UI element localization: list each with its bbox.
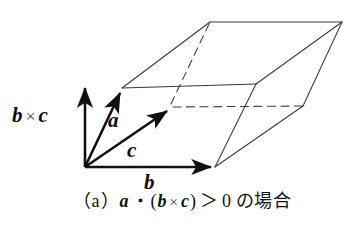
caption-japanese-text: の場合 [231, 191, 292, 211]
edge-base-right [215, 106, 303, 167]
cross-operator-icon: × [23, 107, 39, 126]
edge-top-front [122, 84, 256, 88]
caption-open-paren: （ [73, 191, 91, 211]
caption-relation: ＞ [196, 191, 222, 211]
label-bxc-right: c [39, 103, 49, 127]
caption-dot-operator-icon: ・ [130, 193, 151, 209]
caption-tag: a [91, 191, 101, 211]
edge-side-front-right [215, 84, 256, 167]
edge-hidden-base-back [173, 106, 303, 107]
caption-cross-operator-icon: × [168, 194, 180, 210]
label-vector-c: c [127, 140, 137, 161]
edge-side-back-right [303, 22, 342, 106]
caption-vector-c: c [180, 191, 190, 211]
edge-top-left [122, 22, 210, 88]
label-vector-b: b [144, 172, 155, 193]
label-bxc-left: b [12, 103, 23, 127]
figure-caption: （a）a・(b×c)＞0の場合 [0, 192, 364, 212]
figure-container: b×c a c b （a）a・(b×c)＞0の場合 [0, 0, 364, 225]
label-b-cross-c: b×c [12, 105, 48, 126]
edge-hidden-vertical-back-left [171, 22, 210, 104]
caption-vector-a: a [119, 191, 130, 211]
edge-top-right [256, 22, 342, 84]
parallelepiped-edges [122, 22, 342, 167]
vector-arrows [85, 88, 211, 167]
caption-vector-b: b [157, 191, 168, 211]
caption-group-open: ( [151, 191, 157, 211]
caption-value: 0 [222, 191, 231, 211]
label-vector-a: a [108, 110, 119, 131]
caption-close-paren: ） [101, 191, 119, 211]
